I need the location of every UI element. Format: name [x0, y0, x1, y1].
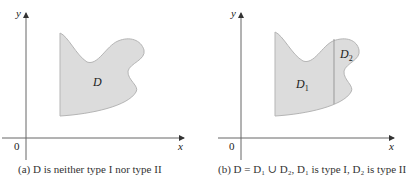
panel-a-region-d: [60, 33, 144, 116]
panel-b-region-d: [275, 32, 359, 116]
panel-b-caption: (b) D = D₁ ∪ D₂, D₁ is type I, D₂ is typ…: [218, 163, 406, 176]
panel-a-y-label: y: [15, 7, 21, 19]
panel-b-x-label: x: [388, 140, 394, 152]
panel-a-region-label: D: [92, 75, 102, 89]
panel-a-caption: (a) D is neither type I nor type II: [18, 163, 162, 175]
panel-b: D1 D2 y x 0: [218, 7, 394, 160]
panel-b-y-label: y: [230, 7, 236, 19]
panel-b-origin-label: 0: [229, 140, 235, 152]
panel-a-x-label: x: [177, 140, 183, 152]
panel-a-origin-label: 0: [14, 140, 20, 152]
panel-a: D y x 0: [2, 7, 184, 160]
